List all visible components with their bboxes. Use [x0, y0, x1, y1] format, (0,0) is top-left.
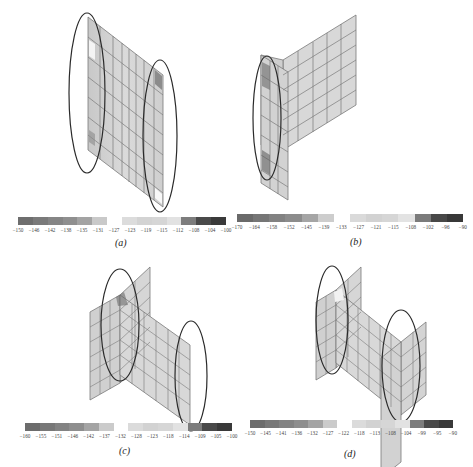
- colorbar-ticks-a: −150 −146 −142 −138 −135 −131 −127 −123 …: [18, 227, 226, 233]
- colorbar-ticks-c: −160 −155 −151 −146 −142 −137 −132 −128 …: [25, 433, 232, 439]
- colorbar-c: [25, 423, 232, 431]
- colorbar-d: [250, 420, 453, 428]
- panel-d: −150 −145 −141 −136 −132 −127 −122 −118 …: [236, 250, 473, 467]
- plate-mesh-a: [0, 0, 236, 210]
- caption-b: (b): [350, 236, 362, 247]
- plate-mesh-c: [0, 250, 236, 420]
- caption-d: (d): [344, 448, 356, 459]
- colorbar-ticks-d: −150 −145 −141 −136 −132 −127 −122 −118 …: [250, 430, 453, 436]
- caption-c: (c): [119, 445, 130, 456]
- panel-c: −160 −155 −151 −146 −142 −137 −132 −128 …: [0, 250, 236, 467]
- colorbar-ticks-b: −170 −164 −158 −152 −145 −139 −133 −127 …: [237, 224, 463, 230]
- caption-a: (a): [115, 237, 127, 248]
- panel-a: −150 −146 −142 −138 −135 −131 −127 −123 …: [0, 0, 236, 250]
- tick-label: −150: [13, 227, 24, 233]
- colorbar-seg: [18, 217, 33, 225]
- colorbar-b: [237, 214, 463, 222]
- plate-mesh-d: [236, 250, 473, 420]
- colorbar-a: [18, 217, 226, 225]
- plate-mesh-b: [236, 0, 473, 210]
- panel-b: −170 −164 −158 −152 −145 −139 −133 −127 …: [236, 0, 473, 250]
